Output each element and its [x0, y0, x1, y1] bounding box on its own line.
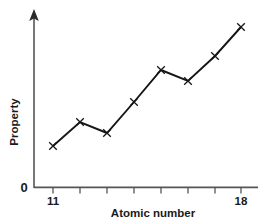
- series-line-property: [53, 27, 241, 146]
- data-point-marker: [237, 23, 245, 31]
- x-axis-title: Atomic number: [111, 207, 196, 219]
- data-point-marker: [103, 129, 111, 137]
- data-point-marker: [130, 98, 138, 106]
- data-point-marker: [76, 118, 84, 126]
- x-tick-label-first: 11: [47, 195, 60, 207]
- data-point-marker: [184, 77, 192, 85]
- data-point-marker: [211, 52, 219, 60]
- y-axis-origin-label: 0: [20, 180, 27, 195]
- y-axis-title: Property: [8, 98, 20, 146]
- data-point-marker: [49, 142, 57, 150]
- data-point-marker: [157, 66, 165, 74]
- x-axis-ticks: [53, 187, 241, 193]
- chart-figure: 0 11 18 Atomic number Property: [0, 0, 268, 223]
- chart-plot-area: 0 11 18 Atomic number Property: [0, 0, 268, 223]
- x-tick-label-last: 18: [235, 195, 248, 207]
